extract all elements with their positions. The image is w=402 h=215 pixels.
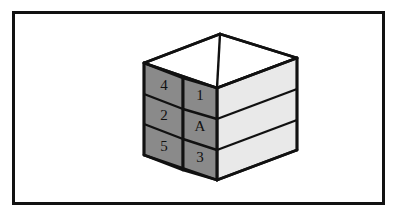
front-right-cell-1-label: 1 (196, 87, 204, 103)
front-right-cell-3-label: 3 (196, 149, 204, 165)
front-left-face: 4 2 5 (144, 63, 183, 170)
front-left-cell-2-label: 2 (160, 107, 168, 123)
front-left-cell-3-label: 5 (160, 138, 168, 154)
front-left-cell-1-label: 4 (160, 77, 168, 93)
front-right-cell-2-label: A (195, 118, 206, 134)
figure-root: 4 2 5 1 A 3 (0, 0, 402, 215)
front-right-face: 1 A 3 (183, 78, 217, 180)
cube-illustration: 4 2 5 1 A 3 (0, 0, 402, 215)
